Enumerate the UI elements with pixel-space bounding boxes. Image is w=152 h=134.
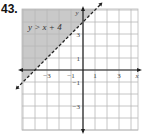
inequality-label: y > x + 4 (27, 22, 62, 32)
x-axis-label: x (134, 72, 139, 80)
x-axis-arrow-left-icon (18, 68, 23, 72)
inequality-chart: −3−11331−1−3xyy > x + 4 (0, 0, 152, 134)
y-axis-arrow-down-icon (81, 129, 85, 134)
y-tick-label: −1 (73, 79, 81, 87)
y-axis-arrow-icon (81, 6, 85, 11)
y-tick-label: 1 (77, 55, 81, 63)
x-tick-label: −3 (43, 72, 51, 80)
x-tick-label: 3 (117, 72, 121, 80)
y-tick-label: −3 (73, 103, 81, 111)
y-tick-label: 3 (77, 31, 81, 39)
x-tick-label: 1 (93, 72, 97, 80)
